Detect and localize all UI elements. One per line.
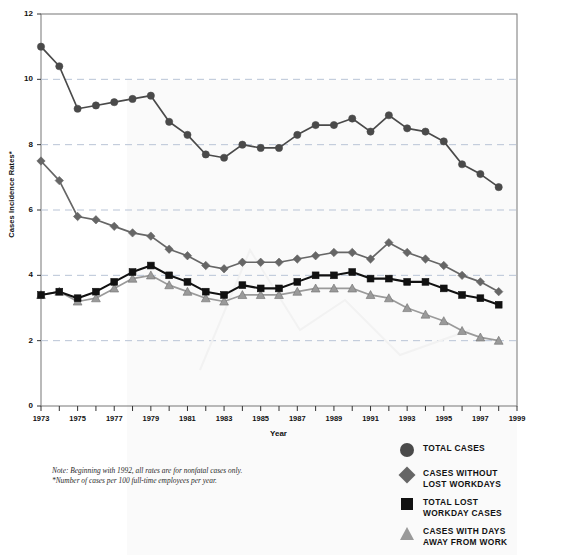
footnote-line-2: *Number of cases per 100 full-time emplo… xyxy=(52,476,242,486)
y-tick-label: 2 xyxy=(7,336,33,345)
y-axis-title: Cases Incidence Rates* xyxy=(7,135,16,255)
legend-label: CASES WITHOUT LOST WORKDAYS xyxy=(423,465,501,489)
y-tick-label: 8 xyxy=(7,140,33,149)
x-axis-title: Year xyxy=(40,429,517,438)
x-tick-label: 1977 xyxy=(96,414,132,423)
legend-swatch xyxy=(400,527,414,540)
triangle-marker-icon xyxy=(398,523,418,543)
legend-swatch xyxy=(400,443,414,457)
x-tick-label: 1989 xyxy=(316,414,352,423)
legend-item[interactable]: CASES WITH DAYS AWAY FROM WORK xyxy=(398,523,568,547)
x-tick-label: 1993 xyxy=(389,414,425,423)
x-tick-label: 1995 xyxy=(426,414,462,423)
legend-label: TOTAL LOST WORKDAY CASES xyxy=(423,494,502,518)
x-tick-label: 1981 xyxy=(169,414,205,423)
x-tick-label: 1979 xyxy=(133,414,169,423)
x-tick-label: 1999 xyxy=(499,414,535,423)
legend-swatch xyxy=(401,498,413,510)
x-tick-label: 1987 xyxy=(279,414,315,423)
chart-footnote: Note: Beginning with 1992, all rates are… xyxy=(52,466,242,486)
chart-legend: TOTAL CASESCASES WITHOUT LOST WORKDAYSTO… xyxy=(398,440,568,552)
legend-swatch xyxy=(399,467,416,484)
y-tick-label: 12 xyxy=(7,9,33,18)
chart-container: Cases Incidence Rates* Year 024681012 19… xyxy=(0,0,569,555)
x-tick-label: 1975 xyxy=(60,414,96,423)
legend-item[interactable]: CASES WITHOUT LOST WORKDAYS xyxy=(398,465,568,489)
y-tick-label: 4 xyxy=(7,270,33,279)
legend-item[interactable]: TOTAL LOST WORKDAY CASES xyxy=(398,494,568,518)
x-tick-label: 1997 xyxy=(462,414,498,423)
legend-item[interactable]: TOTAL CASES xyxy=(398,440,568,460)
legend-label: TOTAL CASES xyxy=(423,440,485,454)
y-tick-label: 10 xyxy=(7,74,33,83)
x-tick-label: 1991 xyxy=(353,414,389,423)
x-tick-label: 1985 xyxy=(243,414,279,423)
circle-marker-icon xyxy=(398,440,418,460)
square-marker-icon xyxy=(398,494,418,514)
y-tick-label: 0 xyxy=(7,401,33,410)
y-tick-label: 6 xyxy=(7,205,33,214)
footnote-line-1: Note: Beginning with 1992, all rates are… xyxy=(52,466,242,476)
diamond-marker-icon xyxy=(398,465,418,485)
legend-label: CASES WITH DAYS AWAY FROM WORK xyxy=(423,523,507,547)
x-tick-label: 1973 xyxy=(23,414,59,423)
x-tick-label: 1983 xyxy=(206,414,242,423)
